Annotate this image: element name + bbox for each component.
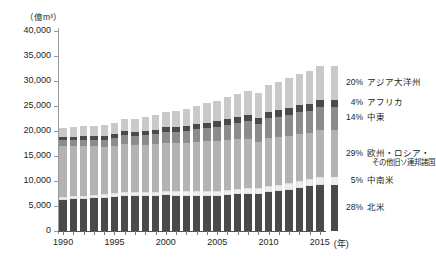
bar-segment (285, 115, 292, 137)
x-tick-mark (269, 231, 270, 235)
bar-segment (70, 127, 77, 136)
y-tick-label: 40,000 (23, 25, 51, 35)
bar-segment (203, 141, 210, 191)
bar (59, 128, 66, 231)
x-tick-mark (166, 231, 167, 235)
bar-segment (203, 128, 210, 142)
bar-segment (90, 198, 97, 231)
y-tick-mark (54, 206, 58, 207)
bar-segment (203, 196, 210, 232)
y-tick-label: 30,000 (23, 75, 51, 85)
legend-label: アジア大洋州 (367, 77, 421, 88)
legend-label: アフリカ (367, 97, 403, 108)
bar-segment (234, 123, 241, 139)
bar-segment (213, 101, 220, 121)
bar-segment (162, 195, 169, 231)
bar-segment (224, 97, 231, 119)
legend-label: 中南米 (367, 175, 394, 186)
bar (275, 82, 282, 231)
bar-segment (265, 85, 272, 112)
x-tick-label: 2005 (207, 237, 227, 247)
x-tick-mark (104, 231, 105, 235)
bar (172, 111, 179, 231)
bar-segment (255, 93, 262, 118)
bar (213, 101, 220, 231)
legend-label: 欧州・ロシア・その他旧ソ連邦諸国 (367, 148, 435, 168)
x-tick-mark (197, 231, 198, 235)
y-tick-label: 35,000 (23, 50, 51, 60)
x-axis-line (58, 231, 326, 232)
bar (193, 106, 200, 231)
bar-segment (296, 188, 303, 231)
bar-segment (296, 74, 303, 105)
bar-segment (224, 125, 231, 141)
bar-segment (244, 194, 251, 231)
x-tick-label: 1990 (53, 237, 73, 247)
legend-label: 北米 (367, 202, 385, 213)
bar-segment (70, 199, 77, 231)
x-tick-label: 1995 (104, 237, 124, 247)
bar-segment (296, 181, 303, 188)
stacked-bar-chart: （億m³） 05,00010,00015,00020,00025,00030,0… (0, 0, 436, 263)
legend-item: 28%北米 (341, 202, 385, 213)
bar-segment (265, 138, 272, 187)
legend-swatch (331, 107, 338, 131)
x-tick-mark (227, 231, 228, 235)
bar-segment (162, 143, 169, 191)
legend-percent: 29% (341, 148, 363, 158)
bar-segment (90, 146, 97, 194)
bar-segment (70, 146, 77, 196)
bar-segment (183, 143, 190, 191)
bar-segment (172, 196, 179, 231)
bar-segment (244, 91, 251, 115)
plot-area (58, 31, 325, 231)
bar-segment (162, 112, 169, 127)
bar-segment (172, 143, 179, 191)
x-tick-mark (279, 231, 280, 235)
bar (90, 126, 97, 231)
bar-segment (265, 118, 272, 138)
bar-segment (285, 136, 292, 183)
y-tick-mark (54, 131, 58, 132)
bar-segment (306, 179, 313, 186)
bar-segment (121, 196, 128, 231)
x-tick-mark (289, 231, 290, 235)
bar-segment (234, 94, 241, 117)
bar-segment (121, 119, 128, 131)
legend-item: 29%欧州・ロシア・その他旧ソ連邦諸国 (341, 148, 435, 168)
x-tick-mark (186, 231, 187, 235)
bar-segment (275, 191, 282, 231)
bar-segment (80, 146, 87, 196)
bar-segment (316, 185, 323, 232)
bar-segment (101, 125, 108, 136)
y-tick-label: 0 (46, 225, 51, 235)
bar-segment (172, 111, 179, 127)
y-tick-label: 25,000 (23, 100, 51, 110)
bar-segment (80, 126, 87, 136)
x-tick-mark (176, 231, 177, 235)
bar-segment (306, 133, 313, 178)
x-tick-mark (217, 231, 218, 235)
bar-segment (213, 127, 220, 141)
y-axis-unit-label: （億m³） (25, 10, 62, 22)
bar-segment (224, 140, 231, 190)
y-tick-mark (54, 181, 58, 182)
chart-legend: 20%アジア大洋州4%アフリカ14%中東29%欧州・ロシア・その他旧ソ連邦諸国5… (331, 0, 436, 263)
y-tick-mark (54, 81, 58, 82)
bar-segment (213, 141, 220, 190)
bar-segment (183, 131, 190, 143)
bar (121, 119, 128, 231)
bar-segment (275, 137, 282, 184)
bar-segment (285, 190, 292, 232)
bar (70, 127, 77, 231)
bar-segment (80, 199, 87, 232)
x-tick-mark (320, 231, 321, 235)
bar-segment (121, 135, 128, 143)
bar (142, 117, 149, 231)
legend-swatch (331, 177, 338, 185)
bar (80, 126, 87, 231)
bar-segment (316, 130, 323, 177)
bar (183, 109, 190, 231)
legend-percent: 4% (341, 97, 363, 107)
x-tick-mark (135, 231, 136, 235)
